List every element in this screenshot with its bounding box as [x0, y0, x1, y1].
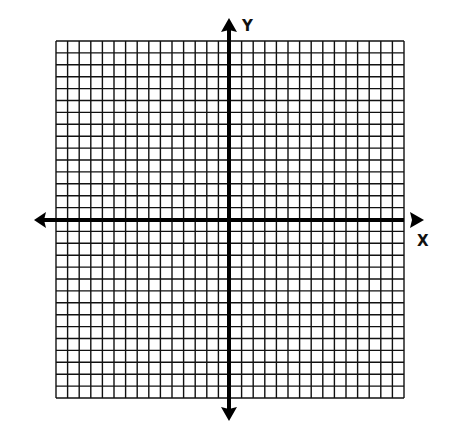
coordinate-plane: Y X — [0, 0, 453, 447]
x-axis-right-arrow-icon — [410, 212, 424, 228]
y-axis-label: Y — [241, 17, 254, 35]
y-axis-down-arrow-icon — [221, 407, 237, 421]
y-axis-up-arrow-icon — [221, 18, 237, 32]
x-axis-label: X — [417, 232, 429, 250]
